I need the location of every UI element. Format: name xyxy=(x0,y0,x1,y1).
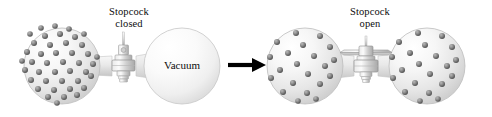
stopcock-open-label: Stopcock open xyxy=(338,6,402,29)
stopcock-closed-label-line2: closed xyxy=(98,18,160,30)
stopcock-open-label-line1: Stopcock xyxy=(350,6,390,17)
gas-expansion-diagram: Vacuum Stopcock closed Stopcock open xyxy=(0,0,492,117)
process-arrow xyxy=(228,58,266,72)
bulb-gas-before xyxy=(24,28,100,104)
stopcock-closed-label: Stopcock closed xyxy=(98,6,160,29)
stopcock-closed-label-line1: Stopcock xyxy=(109,6,149,17)
vacuum-label: Vacuum xyxy=(164,59,200,71)
diagram-canvas: Vacuum xyxy=(0,0,492,117)
stopcock-closed[interactable] xyxy=(112,32,135,82)
apparatus-after xyxy=(267,28,465,104)
stopcock-open-label-line2: open xyxy=(338,18,402,30)
